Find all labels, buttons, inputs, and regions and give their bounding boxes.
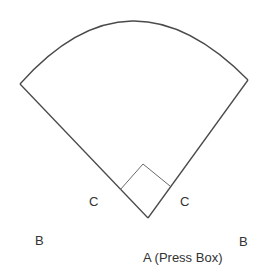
- label-c-left: C: [89, 195, 98, 208]
- label-a-press-box: A (Press Box): [143, 251, 222, 264]
- left-foul-line: [20, 84, 148, 218]
- infield-square: [120, 164, 170, 190]
- label-c-right: C: [180, 195, 189, 208]
- right-foul-line: [148, 80, 248, 218]
- outfield-arc: [20, 21, 248, 84]
- label-b-right: B: [239, 235, 248, 248]
- label-b-left: B: [35, 234, 44, 247]
